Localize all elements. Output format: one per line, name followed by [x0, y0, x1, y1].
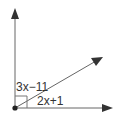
horizontal-arrowhead-icon [102, 104, 113, 112]
vertex-point [12, 105, 17, 110]
lower-angle-label: 2x+1 [37, 94, 64, 108]
upper-angle-label: 3x−11 [16, 80, 48, 94]
diagram-svg: 3x−11 2x+1 [0, 0, 117, 123]
vertical-arrowhead-icon [11, 8, 19, 19]
angle-diagram: 3x−11 2x+1 [0, 0, 117, 123]
diagonal-arrowhead-icon [91, 57, 103, 66]
